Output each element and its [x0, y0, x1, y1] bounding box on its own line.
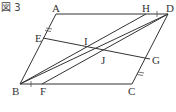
label-D: D — [166, 2, 174, 14]
label-E: E — [35, 32, 42, 44]
label-A: A — [52, 2, 60, 14]
segment-FD — [42, 14, 168, 84]
label-H: H — [142, 2, 150, 14]
label-C: C — [128, 85, 135, 97]
figure-3-diagram: 図 3 A H D E I J G B F C — [0, 0, 176, 112]
tick-AE — [45, 28, 52, 32]
label-J: J — [101, 54, 106, 66]
label-B: B — [12, 85, 19, 97]
label-F: F — [40, 85, 46, 97]
label-G: G — [152, 54, 160, 66]
segment-BH — [20, 14, 146, 84]
segment-BD — [20, 14, 168, 84]
figure-title: 図 3 — [1, 2, 21, 13]
label-I: I — [84, 35, 88, 47]
